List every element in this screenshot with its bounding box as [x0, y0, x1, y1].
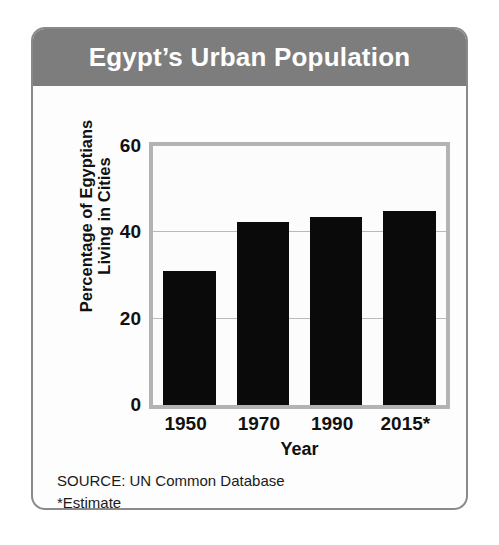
source-note: SOURCE: UN Common Database	[57, 470, 285, 492]
footnotes: SOURCE: UN Common Database *Estimate	[57, 470, 285, 510]
chart-card: Egypt’s Urban Population Percentage of E…	[31, 27, 468, 510]
bar-1990	[310, 217, 363, 405]
y-tick-label: 40	[93, 221, 141, 243]
bar-2015	[383, 211, 436, 405]
x-tick-label: 2015*	[381, 413, 431, 435]
plot-inner	[153, 146, 446, 405]
plot-area	[149, 142, 450, 409]
bar-1950	[163, 271, 216, 405]
chart-title-band: Egypt’s Urban Population	[33, 29, 466, 86]
y-axis-tick-labels: 0204060	[93, 86, 141, 510]
estimate-note: *Estimate	[57, 492, 285, 510]
y-tick-label: 0	[93, 394, 141, 416]
y-tick-label: 20	[93, 308, 141, 330]
y-tick-label: 60	[93, 135, 141, 157]
x-tick-label: 1950	[164, 413, 206, 435]
x-axis-title: Year	[149, 439, 450, 460]
x-tick-label: 1990	[311, 413, 353, 435]
bar-1970	[237, 222, 290, 405]
chart-title: Egypt’s Urban Population	[89, 42, 411, 73]
x-tick-label: 1970	[238, 413, 280, 435]
x-axis-tick-labels: 1950197019902015*	[149, 413, 450, 441]
chart-body: Percentage of Egyptians Living in Cities…	[33, 86, 466, 510]
